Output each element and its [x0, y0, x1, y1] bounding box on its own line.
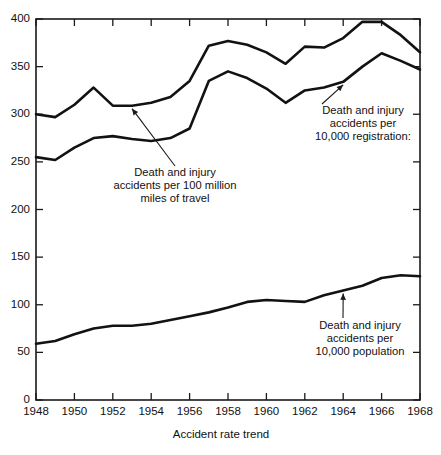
y-tick-label: 200 — [0, 203, 30, 215]
x-tick-label: 1964 — [323, 405, 363, 417]
annotation-registrations: Death and injury accidents per 10,000 re… — [293, 104, 433, 144]
y-tick-label: 350 — [0, 60, 30, 72]
y-tick-label: 50 — [0, 345, 30, 357]
y-tick-label: 300 — [0, 107, 30, 119]
x-tick-label: 1960 — [246, 405, 286, 417]
annotation-population: Death and injury accidents per 10,000 po… — [286, 319, 434, 359]
x-tick-label: 1950 — [54, 405, 94, 417]
x-tick-label: 1954 — [131, 405, 171, 417]
x-tick-label: 1952 — [93, 405, 133, 417]
x-tick-label: 1948 — [16, 405, 56, 417]
x-tick-label: 1958 — [208, 405, 248, 417]
accident-rate-trend-figure: 050100150200250300350400 194819501952195… — [0, 0, 441, 455]
chart-plot-area — [0, 0, 441, 455]
y-tick-label: 400 — [0, 12, 30, 24]
y-tick-label: 150 — [0, 250, 30, 262]
y-tick-label: 100 — [0, 298, 30, 310]
x-tick-label: 1962 — [285, 405, 325, 417]
x-axis-title: Accident rate trend — [138, 428, 304, 440]
x-tick-label: 1956 — [170, 405, 210, 417]
series-line-0 — [36, 22, 420, 117]
y-tick-label: 250 — [0, 155, 30, 167]
leader-line-2 — [340, 293, 346, 318]
y-tick-label: 0 — [0, 393, 30, 405]
annotation-miles-of-travel: Death and injury accidents per 100 milli… — [86, 166, 264, 206]
x-tick-label: 1966 — [362, 405, 402, 417]
x-tick-label: 1968 — [400, 405, 440, 417]
